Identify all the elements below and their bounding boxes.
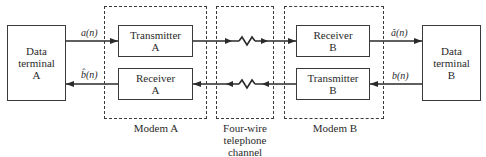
terminal-b-line2: terminal bbox=[433, 57, 470, 69]
data-terminal-a: Data terminal A bbox=[7, 25, 66, 101]
signal-label-b-hat-n: b̂(n) bbox=[81, 69, 98, 80]
modem-b-label: Modem B bbox=[309, 122, 361, 134]
modem-b-boundary bbox=[284, 6, 384, 119]
receiver-b-line2: B bbox=[329, 41, 336, 53]
terminal-b-line3: B bbox=[448, 69, 455, 81]
terminal-a-line1: Data bbox=[26, 45, 47, 57]
channel-label-line1: Four-wire bbox=[215, 122, 275, 134]
terminal-a-line3: A bbox=[33, 69, 41, 81]
modem-a-boundary bbox=[104, 6, 207, 119]
channel-label-line2: telephone bbox=[215, 134, 275, 146]
channel-label: Four-wire telephone channel bbox=[215, 122, 275, 157]
terminal-a-line2: terminal bbox=[18, 57, 55, 69]
diagram-canvas: Data terminal A Transmitter A Receiver A… bbox=[0, 0, 486, 157]
transmitter-a-line1: Transmitter bbox=[130, 29, 181, 41]
transmitter-b: Transmitter B bbox=[296, 68, 370, 100]
receiver-b: Receiver B bbox=[296, 25, 370, 57]
signal-label-a-n: a(n) bbox=[81, 27, 98, 38]
transmitter-a-line2: A bbox=[152, 41, 160, 53]
transmitter-b-line1: Transmitter bbox=[308, 72, 359, 84]
receiver-a-line2: A bbox=[152, 84, 160, 96]
channel-boundary bbox=[216, 6, 274, 119]
terminal-b-line1: Data bbox=[441, 45, 462, 57]
receiver-a-line1: Receiver bbox=[136, 72, 175, 84]
signal-label-b-n: b(n) bbox=[392, 70, 409, 81]
modem-a-label: Modem A bbox=[130, 122, 182, 134]
receiver-b-line1: Receiver bbox=[313, 29, 352, 41]
transmitter-a: Transmitter A bbox=[118, 25, 193, 57]
signal-label-a-hat-n: â(n) bbox=[391, 27, 408, 38]
transmitter-b-line2: B bbox=[329, 84, 336, 96]
channel-label-line3: channel bbox=[215, 146, 275, 157]
data-terminal-b: Data terminal B bbox=[422, 25, 481, 101]
receiver-a: Receiver A bbox=[118, 68, 193, 100]
